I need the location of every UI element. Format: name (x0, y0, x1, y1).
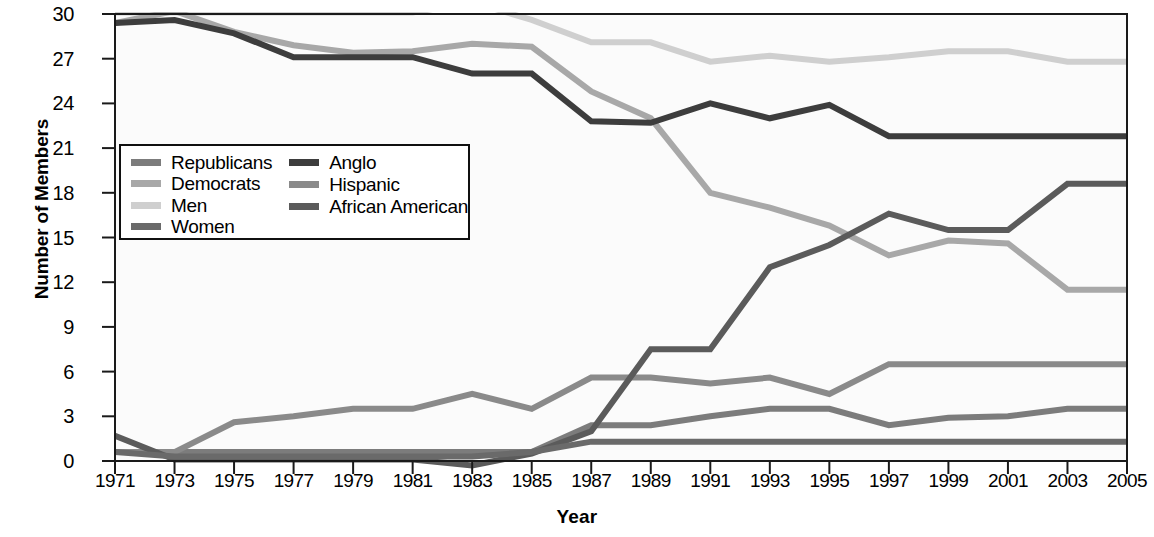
legend-entry-anglo: Anglo (289, 152, 468, 173)
legend-entry-women: Women (131, 217, 283, 238)
legend-line-swatch (131, 180, 161, 187)
legend-entry-african-american: African American (289, 196, 468, 217)
legend-entry-republicans: Republicans (131, 152, 283, 173)
legend-entry-men: Men (131, 195, 283, 216)
legend-column-2: AngloHispanicAfrican American (283, 152, 468, 238)
legend-label: Anglo (329, 153, 376, 172)
legend-label: Republicans (171, 153, 272, 172)
y-axis-ticks (102, 14, 115, 461)
legend-label: Women (171, 217, 235, 236)
legend-line-swatch (289, 203, 319, 210)
x-axis-title: Year (0, 506, 1154, 528)
legend-label: African American (329, 197, 468, 216)
legend-line-swatch (131, 159, 161, 166)
line-chart: Number of Members 036912151821242730 197… (0, 0, 1154, 537)
legend-line-swatch (131, 223, 161, 230)
chart-legend: RepublicansDemocratsMenWomenAngloHispani… (119, 144, 470, 240)
legend-line-swatch (289, 159, 319, 166)
legend-label: Men (171, 196, 207, 215)
legend-label: Hispanic (329, 175, 399, 194)
legend-label: Democrats (171, 174, 260, 193)
legend-entry-democrats: Democrats (131, 174, 283, 195)
x-tick-label: 2005 (1092, 471, 1154, 491)
legend-column-1: RepublicansDemocratsMenWomen (121, 152, 283, 238)
legend-line-swatch (131, 202, 161, 209)
legend-entry-hispanic: Hispanic (289, 174, 468, 195)
legend-line-swatch (289, 181, 319, 188)
plot-area (0, 0, 1154, 537)
